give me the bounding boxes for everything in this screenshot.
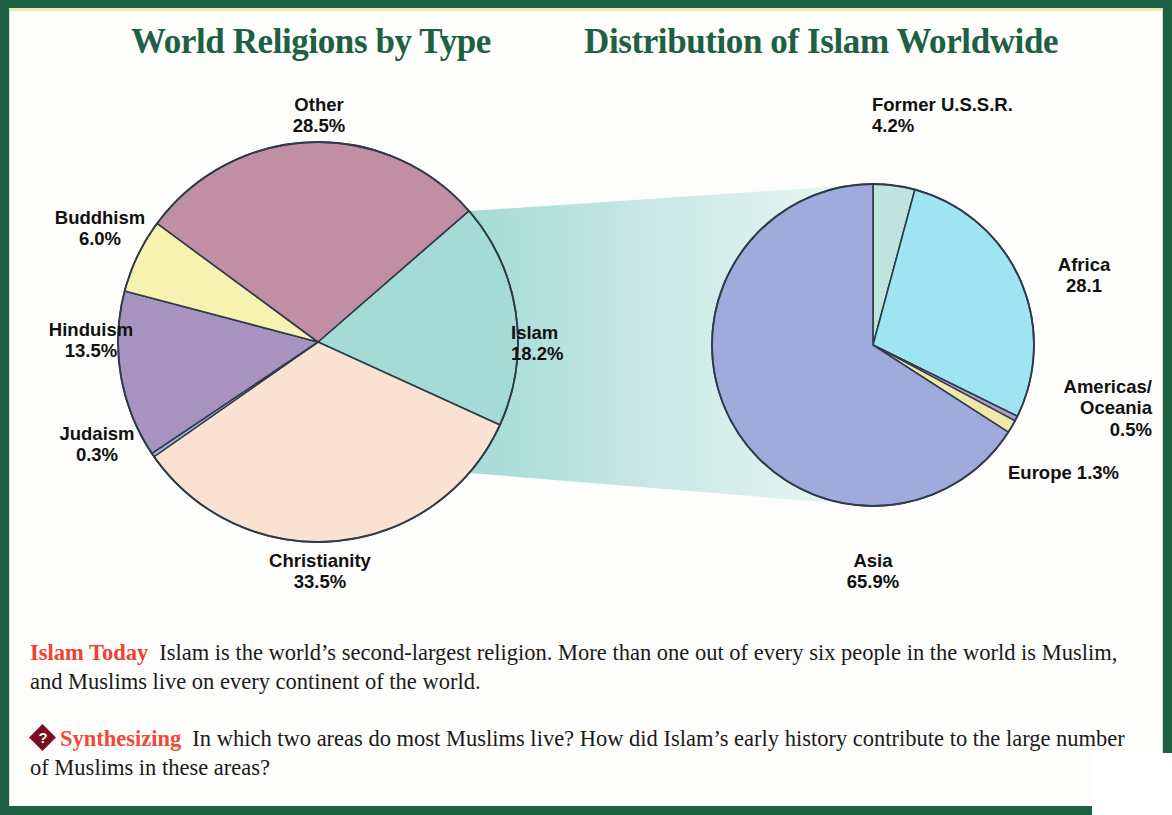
islam-today-note: Islam TodayIslam is the world’s second-l… bbox=[30, 638, 1134, 703]
synthesizing-paragraph: ?SynthesizingIn which two areas do most … bbox=[30, 724, 1134, 783]
pie-label-christianity-value: 33.5% bbox=[222, 571, 418, 592]
pie-label-buddhism-value: 6.0% bbox=[20, 228, 180, 249]
question-glyph: ? bbox=[30, 725, 56, 751]
pie-label-europe: Europe 1.3% bbox=[1008, 462, 1168, 483]
islam-today-lead: Islam Today bbox=[30, 640, 148, 665]
pie-label-europe-name: Europe 1.3% bbox=[1008, 462, 1119, 483]
page-title-right: Distribution of Islam Worldwide bbox=[584, 22, 1058, 62]
pie-label-islam-name: Islam bbox=[511, 322, 558, 343]
pie-label-africa: Africa 28.1 bbox=[1029, 254, 1139, 297]
pie-label-africa-name: Africa bbox=[1058, 254, 1110, 275]
question-diamond-icon: ? bbox=[30, 725, 56, 751]
pie-label-africa-value: 28.1 bbox=[1029, 275, 1139, 296]
pie-label-former-ussr-value: 4.2% bbox=[872, 115, 1102, 136]
pie-label-americas-oceania-name: Americas/ bbox=[1064, 376, 1152, 397]
page-title-left: World Religions by Type bbox=[131, 22, 491, 62]
pie-label-americas-oceania-name2: Oceania bbox=[962, 397, 1152, 418]
pie-label-asia-value: 65.9% bbox=[790, 571, 956, 592]
synthesizing-lead: Synthesizing bbox=[60, 726, 181, 751]
pie-label-islam: Islam 18.2% bbox=[511, 322, 641, 365]
pie-label-former-ussr-name: Former U.S.S.R. bbox=[872, 94, 1013, 115]
pie-label-judaism: Judaism 0.3% bbox=[22, 423, 172, 466]
pie-label-buddhism: Buddhism 6.0% bbox=[20, 207, 180, 250]
pie-label-asia: Asia 65.9% bbox=[790, 550, 956, 593]
pie-chart-world-religions bbox=[118, 142, 518, 542]
pie-label-islam-value: 18.2% bbox=[511, 343, 641, 364]
synthesizing-note: ?SynthesizingIn which two areas do most … bbox=[30, 724, 1134, 789]
pie-label-asia-name: Asia bbox=[853, 550, 892, 571]
pie-label-other: Other 28.5% bbox=[234, 94, 404, 137]
pie-label-judaism-name: Judaism bbox=[59, 423, 134, 444]
synthesizing-body: In which two areas do most Muslims live?… bbox=[30, 726, 1125, 780]
pie-chart-islam-distribution bbox=[712, 184, 1034, 506]
pie-label-hinduism-value: 13.5% bbox=[12, 340, 170, 361]
pie-label-other-name: Other bbox=[294, 94, 343, 115]
charts-stage: Other 28.5% Buddhism 6.0% Hinduism 13.5%… bbox=[0, 80, 1172, 620]
pie-label-other-value: 28.5% bbox=[234, 115, 404, 136]
pie-label-christianity: Christianity 33.5% bbox=[222, 550, 418, 593]
pie-label-americas-oceania: Americas/ Oceania 0.5% bbox=[962, 376, 1152, 440]
pie-label-christianity-name: Christianity bbox=[269, 550, 371, 571]
pie-label-hinduism: Hinduism 13.5% bbox=[12, 319, 170, 362]
pie-label-hinduism-name: Hinduism bbox=[49, 319, 133, 340]
pie-label-judaism-value: 0.3% bbox=[22, 444, 172, 465]
pie-label-americas-oceania-value: 0.5% bbox=[962, 419, 1152, 440]
pie-label-buddhism-name: Buddhism bbox=[55, 207, 145, 228]
figure-page: World Religions by Type Distribution of … bbox=[0, 0, 1172, 815]
islam-today-paragraph: Islam TodayIslam is the world’s second-l… bbox=[30, 638, 1134, 697]
islam-today-body: Islam is the world’s second-largest reli… bbox=[30, 640, 1117, 694]
pie-label-former-ussr: Former U.S.S.R. 4.2% bbox=[872, 94, 1102, 137]
